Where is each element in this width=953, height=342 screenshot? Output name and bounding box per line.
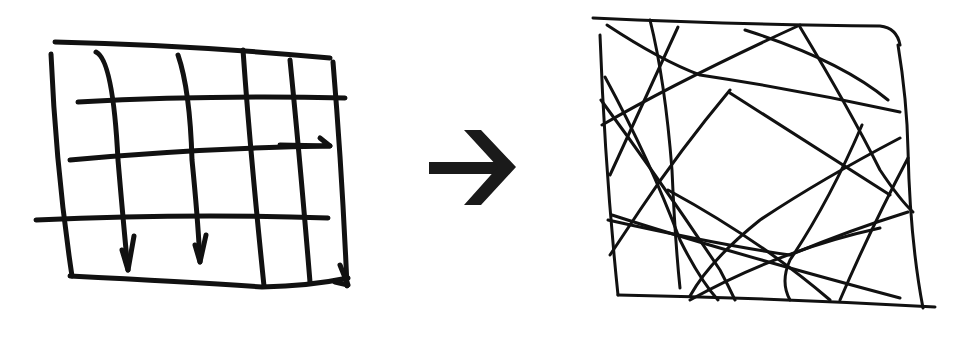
tangle-line bbox=[610, 90, 730, 255]
grid-vertical-line-1 bbox=[96, 52, 128, 270]
tangle-frame-right bbox=[898, 45, 923, 308]
grid-vertical-line-4 bbox=[290, 60, 310, 282]
arrowhead-right bbox=[280, 138, 330, 146]
grid-frame-left bbox=[51, 54, 72, 276]
grid-vertical-line-3 bbox=[243, 50, 264, 286]
chaotic-tangle bbox=[593, 18, 935, 308]
grid-horizontal-line-2 bbox=[70, 146, 330, 160]
ordered-grid bbox=[36, 42, 348, 287]
grid-frame-bottom bbox=[70, 276, 348, 287]
tangle-frame-bottom bbox=[618, 295, 935, 307]
grid-horizontal-line-3 bbox=[36, 216, 328, 220]
arrow-right-icon bbox=[429, 130, 516, 205]
diagram-canvas bbox=[0, 0, 953, 342]
tangle-line bbox=[605, 77, 718, 300]
tangle-line bbox=[668, 190, 830, 300]
tangle-line bbox=[612, 215, 900, 298]
grid-vertical-line-2 bbox=[178, 55, 200, 262]
grid-horizontal-line-1 bbox=[78, 97, 345, 102]
